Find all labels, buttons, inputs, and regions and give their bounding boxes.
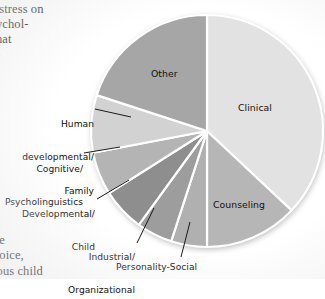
slice-label-industrial-line2: Organizational: [48, 285, 135, 296]
slice-label-developmental-line1: Developmental/: [8, 209, 95, 220]
slice-label-other: Other: [151, 68, 178, 79]
slice-label-clinical: Clinical: [238, 102, 272, 113]
slice-label-personality-social: Personality-Social: [116, 262, 197, 273]
pie-slices: [91, 15, 323, 247]
slice-label-human-line1: Human: [0, 119, 94, 130]
slice-label-cognitive-line1: Cognitive/: [0, 164, 83, 175]
slice-label-counseling: Counseling: [213, 199, 265, 210]
